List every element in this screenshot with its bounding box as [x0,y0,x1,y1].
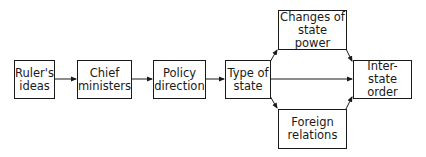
node-inter-state-order: Inter-state order [353,60,412,99]
flowchart-diagram: Ruler's ideas Chief ministers Policy dir… [0,0,426,157]
node-changes-of-state-power: Changes of state power [278,10,347,50]
node-type-of-state: Type of state [225,60,271,99]
arrow-changes-to-interstate [346,49,352,61]
node-policy-direction: Policy direction [153,60,206,99]
arrow-foreign-to-interstate [346,97,352,109]
arrow-type-to-foreign [270,96,277,108]
node-chief-ministers: Chief ministers [77,60,132,99]
arrow-type-to-changes [270,50,277,62]
node-foreign-relations: Foreign relations [278,109,347,149]
node-rulers-ideas: Ruler's ideas [14,60,55,99]
